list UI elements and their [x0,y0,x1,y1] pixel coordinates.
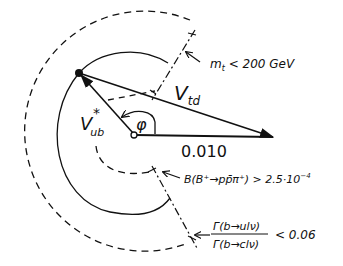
ratio-denominator: Γ(b→clν) [213,238,259,251]
outer-dashed-arc [25,11,190,251]
diagram-canvas: Vtd Vub * φ 0.010 mt < 200 GeV B(B⁺→pp̄π… [0,0,343,266]
dash-dot-tick-mid [150,90,156,94]
dash-dot-line [152,30,198,250]
base-length-label: 0.010 [181,142,227,161]
base-arrow [135,135,273,137]
vtd-label: Vtd [174,81,200,108]
mt-constraint-label: mt < 200 GeV [210,57,295,73]
ratio-rhs: < 0.06 [275,228,316,242]
branching-constraint-label: B(B⁺→pp̄π⁺) > 2.5·10−4 [184,172,311,186]
branching-pointer-arrow [163,172,180,178]
ratio-numerator: Γ(b→ulν) [213,220,260,233]
vub-star: * [93,105,100,121]
inner-dashed-arc [96,146,150,173]
apex-point [75,69,83,77]
phi-label: φ [136,115,147,134]
mt-pointer-arrow [186,52,200,62]
middle-solid-arc [57,52,170,214]
